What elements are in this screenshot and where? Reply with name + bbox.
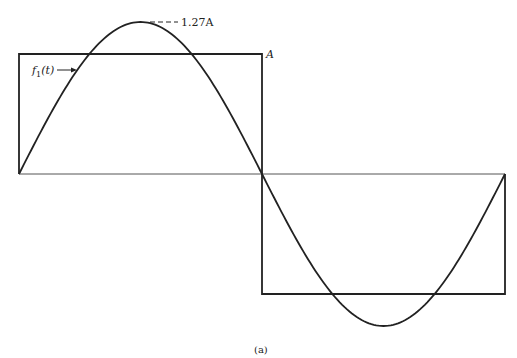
waveform-diagram: 1.27A A f1(t) (a) (0, 0, 517, 358)
peak-label: 1.27A (181, 16, 214, 29)
figure-caption: (a) (254, 344, 268, 355)
function-label: f1(t) (31, 64, 54, 79)
amplitude-label: A (265, 48, 274, 61)
